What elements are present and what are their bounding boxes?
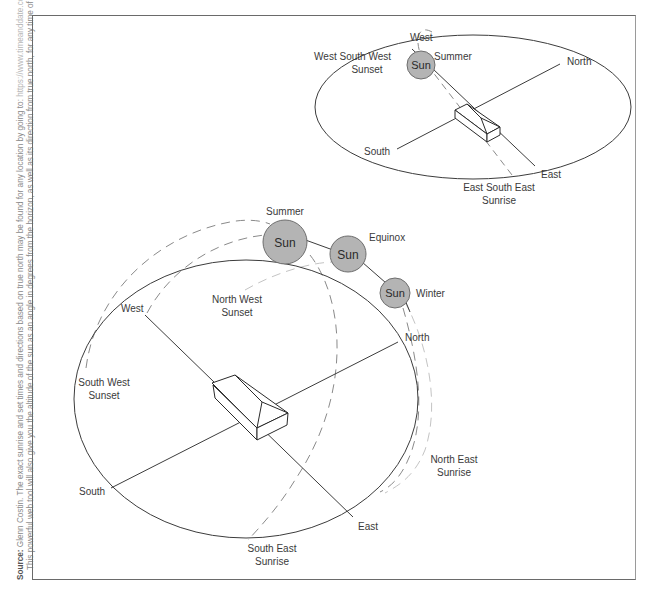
winter-path-east bbox=[385, 302, 432, 493]
south-label: South bbox=[79, 486, 105, 497]
small-summer-sun: Sun bbox=[407, 51, 435, 79]
north-east-sunrise-line2: Sunrise bbox=[437, 467, 471, 478]
north-east-sunrise-line1: North East bbox=[430, 454, 477, 465]
large-diagram: Sun Sun Sun Summer Equinox Winter West N… bbox=[74, 206, 478, 567]
sun-label: Sun bbox=[385, 287, 405, 299]
small-east-label: East bbox=[541, 169, 561, 180]
winter-label: Winter bbox=[416, 288, 446, 299]
winter-path-west bbox=[245, 262, 335, 290]
south-east-sunrise-line1: South East bbox=[248, 543, 297, 554]
north-label: North bbox=[405, 332, 429, 343]
sun-label: Sun bbox=[337, 248, 358, 262]
north-west-sunset-line2: Sunset bbox=[221, 307, 252, 318]
small-summer-label: Summer bbox=[434, 51, 472, 62]
sun-label: Sun bbox=[274, 236, 295, 250]
south-east-sunrise-line2: Sunrise bbox=[255, 556, 289, 567]
small-house-icon bbox=[455, 104, 500, 142]
small-wsw-line1: West South West bbox=[314, 51, 391, 62]
small-south-label: South bbox=[364, 146, 390, 157]
sun-path-diagram: Sun Summer West North South East West So… bbox=[0, 0, 649, 591]
equinox-label: Equinox bbox=[369, 232, 405, 243]
west-label: West bbox=[121, 303, 144, 314]
small-diagram: Sun Summer West North South East West So… bbox=[314, 30, 631, 206]
winter-sun: Sun bbox=[380, 278, 410, 308]
small-north-label: North bbox=[567, 56, 591, 67]
small-ese-line2: Sunrise bbox=[482, 195, 516, 206]
equinox-sun: Sun bbox=[330, 236, 366, 272]
house-icon bbox=[212, 375, 288, 440]
east-label: East bbox=[358, 521, 378, 532]
north-west-sunset-line1: North West bbox=[212, 294, 262, 305]
summer-label: Summer bbox=[266, 206, 304, 217]
south-west-sunset-line1: South West bbox=[78, 377, 130, 388]
small-wsw-line2: Sunset bbox=[351, 64, 382, 75]
sun-label: Sun bbox=[411, 59, 431, 71]
summer-sun: Sun bbox=[263, 220, 307, 264]
south-west-sunset-line2: Sunset bbox=[88, 390, 119, 401]
small-west-label: West bbox=[410, 32, 433, 43]
small-ese-line1: East South East bbox=[463, 182, 535, 193]
